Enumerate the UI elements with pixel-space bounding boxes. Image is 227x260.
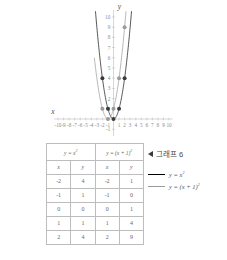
x-tick-label: 10 xyxy=(166,122,172,128)
x-tick-label: -4 xyxy=(89,122,94,128)
values-table: y = x2 y = (x + 1)2 x y x y -24-21-11-10… xyxy=(46,143,144,245)
table-row: -24-21 xyxy=(47,174,144,188)
x-tick-label: 1 xyxy=(118,122,121,128)
data-point xyxy=(123,25,127,29)
col-y-2: y xyxy=(119,160,143,174)
x-tick-label: 7 xyxy=(151,122,154,128)
x-tick-label: 4 xyxy=(134,122,137,128)
x-tick-label: 2 xyxy=(123,122,126,128)
data-point xyxy=(117,107,121,111)
table-header-y-equals-x-plus-one-squared: y = (x + 1)2 xyxy=(95,144,144,161)
table-subheader-row: x y x y xyxy=(47,160,144,174)
y-tick-label: 4 xyxy=(108,75,111,81)
data-point xyxy=(100,76,104,80)
table-header-y-equals-x-squared: y = x2 xyxy=(47,144,96,161)
y-tick-label: 3 xyxy=(108,85,111,91)
table-cell: 0 xyxy=(47,202,71,216)
table-cell: 0 xyxy=(119,188,143,202)
x-tick-label: -9 xyxy=(61,122,66,128)
x-tick-label: 6 xyxy=(146,122,149,128)
x-tick-label: 8 xyxy=(157,122,160,128)
data-point xyxy=(112,107,116,111)
x-tick-label: -3 xyxy=(95,122,100,128)
table-cell: 4 xyxy=(71,174,95,188)
x-tick-label: -2 xyxy=(100,122,105,128)
legend-entries: y = x2y = (x + 1)2 xyxy=(148,168,227,192)
table-cell: -2 xyxy=(95,174,119,188)
table-cell: 9 xyxy=(119,230,143,244)
col-y-1: y xyxy=(71,160,95,174)
table-cell: -2 xyxy=(47,174,71,188)
x-tick-label: -8 xyxy=(67,122,72,128)
data-point xyxy=(112,117,116,121)
table-cell: 0 xyxy=(71,202,95,216)
legend-title-label: 그래프 6 xyxy=(156,148,183,159)
x-tick-label: -5 xyxy=(84,122,89,128)
exponent: 2 xyxy=(198,182,200,187)
y-tick-label: 9 xyxy=(108,24,111,30)
y-tick-label: 5 xyxy=(108,65,111,71)
table-cell: 1 xyxy=(119,174,143,188)
legend-entry: y = x2 xyxy=(148,168,227,180)
table-head: y = x2 y = (x + 1)2 x y x y xyxy=(47,144,144,175)
data-point xyxy=(117,76,121,80)
values-table-container: y = x2 y = (x + 1)2 x y x y -24-21-11-10… xyxy=(46,143,144,245)
table-row: 2429 xyxy=(47,230,144,244)
table-cell: 1 xyxy=(47,216,71,230)
y-tick-label: 7 xyxy=(108,45,111,51)
table-cell: 1 xyxy=(71,216,95,230)
legend-line-icon xyxy=(148,174,165,175)
y-tick-label: -1 xyxy=(106,126,111,132)
left-triangle-icon xyxy=(148,151,153,157)
legend-entry-label: y = (x + 1)2 xyxy=(169,182,200,190)
coordinate-plane: -10-9-8-7-6-5-4-3-2-112345678910-1123456… xyxy=(0,0,227,136)
table-cell: 2 xyxy=(95,230,119,244)
legend-entry-label: y = x2 xyxy=(169,170,184,178)
table-header-row: y = x2 y = (x + 1)2 xyxy=(47,144,144,161)
legend-line-icon xyxy=(148,186,165,187)
exponent: 2 xyxy=(75,148,77,153)
parabola-plot: -10-9-8-7-6-5-4-3-2-112345678910-1123456… xyxy=(0,0,227,136)
table-row: -11-10 xyxy=(47,188,144,202)
table-cell: 2 xyxy=(47,230,71,244)
data-point xyxy=(106,107,110,111)
table-cell: -1 xyxy=(95,188,119,202)
exponent: 2 xyxy=(130,148,132,153)
x-tick-label: 9 xyxy=(162,122,165,128)
col-x-1: x xyxy=(47,160,71,174)
data-point xyxy=(100,107,104,111)
y-tick-label: 8 xyxy=(108,34,111,40)
table-cell: 1 xyxy=(95,216,119,230)
col-x-2: x xyxy=(95,160,119,174)
table-body: -24-21-11-10000111142429 xyxy=(47,174,144,244)
table-cell: 1 xyxy=(119,202,143,216)
table-cell: 4 xyxy=(71,230,95,244)
legend: 그래프 6 y = x2y = (x + 1)2 xyxy=(148,148,227,192)
x-axis-label: x xyxy=(50,107,55,116)
x-tick-label: 3 xyxy=(129,122,132,128)
x-tick-label: -6 xyxy=(78,122,83,128)
legend-title: 그래프 6 xyxy=(148,148,227,159)
table-cell: -1 xyxy=(47,188,71,202)
y-tick-label: 2 xyxy=(108,96,111,102)
table-row: 1114 xyxy=(47,216,144,230)
table-cell: 4 xyxy=(119,216,143,230)
exponent: 2 xyxy=(182,170,184,175)
table-cell: 1 xyxy=(71,188,95,202)
data-point xyxy=(106,117,110,121)
data-point xyxy=(123,76,127,80)
y-axis-label: y xyxy=(117,2,122,11)
y-tick-label: 6 xyxy=(108,55,111,61)
figure-root: -10-9-8-7-6-5-4-3-2-112345678910-1123456… xyxy=(0,0,227,260)
table-cell: 0 xyxy=(95,202,119,216)
table-row: 0001 xyxy=(47,202,144,216)
y-tick-label: 10 xyxy=(105,14,111,20)
x-tick-label: 5 xyxy=(140,122,143,128)
legend-entry: y = (x + 1)2 xyxy=(148,180,227,192)
x-tick-label: -7 xyxy=(72,122,77,128)
